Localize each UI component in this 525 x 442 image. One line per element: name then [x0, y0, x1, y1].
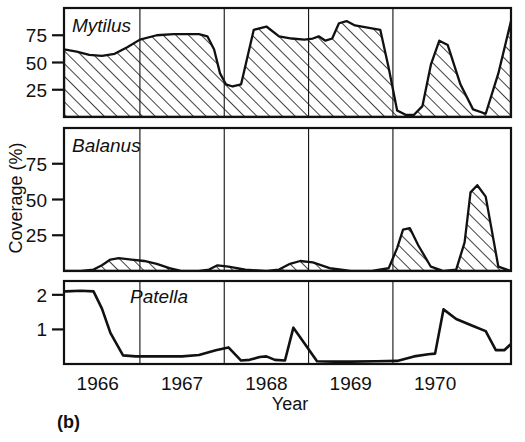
panel-mytilus: 255075Mytilus — [26, 8, 511, 117]
figure-container: 255075Mytilus255075Balanus12Patella19661… — [0, 0, 525, 442]
panel-balanus: 255075Balanus — [26, 128, 511, 271]
panel-label-balanus: Balanus — [72, 135, 141, 156]
panel-label-mytilus: Mytilus — [72, 15, 132, 36]
figure-caption: (b) — [57, 412, 80, 432]
panel-label-patella: Patella — [130, 286, 188, 307]
panel-patella: 12Patella — [36, 281, 511, 364]
y-axis-title: Coverage (%) — [6, 142, 26, 253]
y-tick-label-mytilus-1: 50 — [26, 53, 47, 74]
y-tick-label-mytilus-2: 75 — [26, 25, 47, 46]
coverage-time-series-chart: 255075Mytilus255075Balanus12Patella19661… — [0, 0, 525, 442]
y-tick-label-balanus-0: 25 — [26, 225, 47, 246]
x-tick-label-1970: 1970 — [414, 373, 456, 394]
y-tick-label-balanus-1: 50 — [26, 190, 47, 211]
y-tick-label-balanus-2: 75 — [26, 154, 47, 175]
y-tick-label-patella-0: 1 — [36, 319, 47, 340]
x-tick-label-1967: 1967 — [161, 373, 203, 394]
y-tick-label-patella-1: 2 — [36, 285, 47, 306]
x-axis-title: Year — [272, 394, 308, 414]
x-tick-label-1966: 1966 — [77, 373, 119, 394]
x-tick-label-1969: 1969 — [330, 373, 372, 394]
y-tick-label-mytilus-0: 25 — [26, 80, 47, 101]
x-tick-label-1968: 1968 — [245, 373, 287, 394]
